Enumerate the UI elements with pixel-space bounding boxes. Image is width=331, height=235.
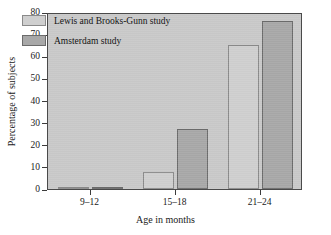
y-tick-label: 10 (31, 161, 41, 174)
bar (228, 45, 259, 189)
x-axis-title: Age in months (0, 214, 331, 225)
y-tick-label: 30 (31, 117, 41, 130)
x-tick-label: 9–12 (50, 196, 130, 209)
x-tick-mark (260, 190, 261, 195)
y-tick-label: 20 (31, 139, 41, 152)
x-tick-label: 15–18 (135, 196, 215, 209)
x-tick-mark (90, 190, 91, 195)
legend-item: Amsterdam study (22, 33, 170, 48)
chart-legend: Lewis and Brooks-Gunn studyAmsterdam stu… (22, 13, 170, 53)
legend-swatch-light (22, 15, 46, 26)
bar-chart-figure: Percentage of subjects 01020304050607080… (0, 0, 331, 235)
legend-item: Lewis and Brooks-Gunn study (22, 13, 170, 28)
bar (262, 21, 293, 189)
legend-label: Amsterdam study (54, 35, 121, 47)
bar (58, 187, 89, 189)
x-tick-mark (175, 190, 176, 195)
y-tick-label: 40 (31, 95, 41, 108)
x-tick-label: 21–24 (220, 196, 300, 209)
bar (143, 172, 174, 189)
bar (92, 187, 123, 189)
legend-label: Lewis and Brooks-Gunn study (54, 15, 170, 27)
legend-swatch-dark (22, 35, 46, 46)
y-tick-label: 0 (35, 183, 40, 196)
bar (177, 129, 208, 189)
y-tick-label: 50 (31, 72, 41, 85)
